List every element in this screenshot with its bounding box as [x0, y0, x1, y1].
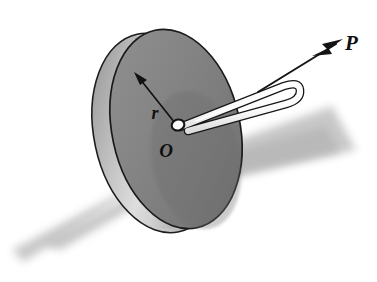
radius-label: r: [151, 103, 159, 123]
center-label: O: [159, 140, 173, 161]
physics-figure: P O r: [0, 0, 377, 282]
figure-canvas: P O r: [0, 0, 377, 282]
force-label: P: [344, 31, 358, 55]
